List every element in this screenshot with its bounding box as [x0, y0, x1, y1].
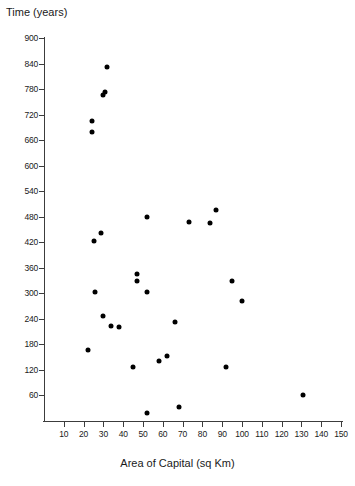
y-axis-tick-label: 780 — [24, 84, 38, 94]
x-axis-tick — [143, 422, 144, 427]
data-point — [89, 130, 94, 135]
data-point — [85, 348, 90, 353]
chart-title: Time (years) — [6, 6, 67, 18]
x-axis-tick-label: 90 — [218, 429, 227, 439]
data-point — [301, 393, 306, 398]
data-point — [105, 64, 110, 69]
data-point — [131, 364, 136, 369]
scatter-chart: Time (years) 601201802403003604204805406… — [0, 0, 355, 486]
x-axis-tick-label: 70 — [178, 429, 187, 439]
data-point — [156, 358, 161, 363]
x-axis-tick — [202, 422, 203, 427]
x-axis-tick — [341, 422, 342, 427]
x-axis-tick — [262, 422, 263, 427]
x-axis-tick — [183, 422, 184, 427]
data-point — [144, 411, 149, 416]
x-axis-tick-label: 80 — [198, 429, 207, 439]
x-axis-tick-labels: 102030405060708090100110120130140150 — [44, 429, 344, 443]
data-point — [135, 278, 140, 283]
x-axis-tick-label: 130 — [295, 429, 309, 439]
data-point — [109, 323, 114, 328]
y-axis-tick-label: 660 — [24, 135, 38, 145]
x-axis-tick — [301, 422, 302, 427]
y-axis-tick-label: 600 — [24, 161, 38, 171]
x-axis-tick-label: 60 — [158, 429, 167, 439]
data-point — [240, 298, 245, 303]
x-axis-tick-label: 10 — [59, 429, 68, 439]
x-axis-tick — [84, 422, 85, 427]
x-axis-tick-label: 20 — [79, 429, 88, 439]
data-point — [176, 405, 181, 410]
data-point — [172, 320, 177, 325]
x-axis-tick-label: 110 — [255, 429, 268, 439]
x-axis-tick — [64, 422, 65, 427]
data-point — [101, 93, 106, 98]
x-axis-tick-label: 40 — [119, 429, 128, 439]
x-axis-tick — [123, 422, 124, 427]
x-axis-tick — [242, 422, 243, 427]
y-axis-tick-label: 120 — [24, 365, 38, 375]
y-axis-tick-label: 540 — [24, 186, 38, 196]
y-axis-tick-label: 240 — [24, 314, 38, 324]
y-axis-tick-labels: 6012018024030036042048054060066072078084… — [0, 38, 38, 421]
x-axis-tick-label: 100 — [235, 429, 249, 439]
y-axis-tick-label: 420 — [24, 237, 38, 247]
x-axis-tick-label: 50 — [138, 429, 147, 439]
x-axis-tick-label: 120 — [275, 429, 289, 439]
y-axis-tick-label: 60 — [29, 390, 38, 400]
y-axis-tick-label: 180 — [24, 339, 38, 349]
data-point — [135, 271, 140, 276]
x-axis-tick — [163, 422, 164, 427]
data-point — [144, 214, 149, 219]
data-point — [99, 230, 104, 235]
data-point — [208, 220, 213, 225]
data-point — [224, 364, 229, 369]
x-axis-tick — [222, 422, 223, 427]
data-point — [91, 238, 96, 243]
x-axis-title: Area of Capital (sq Km) — [0, 457, 355, 469]
y-axis-tick-label: 720 — [24, 110, 38, 120]
x-axis-tick — [321, 422, 322, 427]
data-point — [144, 290, 149, 295]
data-point — [230, 278, 235, 283]
data-point — [101, 313, 106, 318]
data-point — [93, 290, 98, 295]
data-point — [164, 354, 169, 359]
y-axis-tick-label: 300 — [24, 288, 38, 298]
data-point — [214, 208, 219, 213]
x-axis-tick — [103, 422, 104, 427]
y-axis-tick-label: 900 — [24, 33, 38, 43]
data-point — [117, 324, 122, 329]
y-axis-tick-label: 840 — [24, 59, 38, 69]
x-axis-ticks — [44, 422, 344, 428]
x-axis-tick-label: 150 — [334, 429, 348, 439]
data-point — [89, 118, 94, 123]
y-axis-tick-label: 480 — [24, 212, 38, 222]
plot-area — [44, 38, 341, 421]
x-axis-tick-label: 30 — [99, 429, 108, 439]
x-axis-tick — [282, 422, 283, 427]
y-axis-tick-label: 360 — [24, 263, 38, 273]
x-axis-tick-label: 140 — [314, 429, 328, 439]
data-point — [186, 219, 191, 224]
